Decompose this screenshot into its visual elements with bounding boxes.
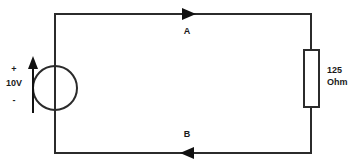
source-plus-label: + xyxy=(11,64,16,74)
current-arrow-bottom-icon xyxy=(180,147,194,159)
circuit-diagram: + 10V - 125 Ohm A B xyxy=(0,0,353,165)
voltage-arrow-head-icon xyxy=(28,56,38,69)
source-minus-label: - xyxy=(13,95,16,105)
node-label-b: B xyxy=(184,129,191,139)
resistor-value-label: 125 xyxy=(327,65,342,75)
current-arrow-top-icon xyxy=(182,8,196,20)
resistor-symbol xyxy=(304,50,319,107)
resistor-unit-label: Ohm xyxy=(327,77,348,87)
node-label-a: A xyxy=(184,26,191,36)
source-value-label: 10V xyxy=(6,78,22,88)
